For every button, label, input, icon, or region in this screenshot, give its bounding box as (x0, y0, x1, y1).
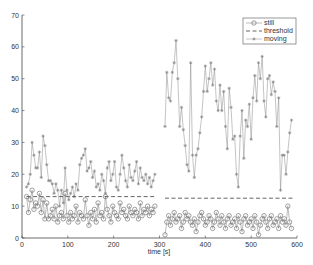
moving-marker (202, 90, 205, 93)
moving-marker (106, 166, 109, 169)
moving-marker (76, 189, 79, 192)
moving-marker (264, 115, 267, 118)
moving-marker (255, 99, 258, 102)
moving-marker (198, 131, 201, 134)
x-axis-label: time [s] (148, 248, 171, 256)
moving-marker (126, 185, 129, 188)
moving-marker (266, 77, 269, 80)
moving-marker (193, 176, 196, 179)
moving-marker (96, 182, 99, 185)
moving-line (165, 41, 292, 191)
moving-marker (204, 64, 207, 67)
moving-marker (30, 141, 33, 144)
moving-marker (235, 173, 238, 176)
moving-marker (107, 160, 110, 163)
x-tick-label: 600 (291, 241, 303, 248)
moving-marker (250, 138, 253, 141)
moving-marker (244, 119, 247, 122)
moving-marker (84, 147, 87, 150)
moving-marker (268, 74, 271, 77)
x-tick-label: 500 (245, 241, 257, 248)
moving-marker (115, 185, 118, 188)
x-tick-label: 400 (199, 241, 211, 248)
moving-marker (148, 176, 151, 179)
moving-marker (171, 71, 174, 74)
moving-marker (174, 39, 177, 42)
moving-marker (213, 68, 216, 71)
moving-marker (131, 179, 134, 182)
chart: 0100200300400500600010203040506070 still… (0, 0, 313, 265)
moving-marker (185, 163, 188, 166)
moving-marker (71, 185, 74, 188)
moving-marker (133, 170, 136, 173)
moving-marker (102, 179, 105, 182)
moving-marker (275, 125, 278, 128)
still-marker (289, 226, 293, 230)
moving-marker (32, 154, 35, 157)
moving-marker (218, 83, 221, 86)
moving-marker (153, 173, 156, 176)
moving-marker (195, 154, 198, 157)
moving-marker (207, 77, 210, 80)
moving-marker (228, 87, 231, 90)
moving-marker (277, 96, 280, 99)
moving-marker (43, 144, 46, 147)
moving-marker (140, 176, 143, 179)
legend: stillthresholdmoving (243, 18, 296, 44)
moving-marker (146, 182, 149, 185)
moving-marker (95, 185, 98, 188)
moving-marker (184, 144, 187, 147)
moving-marker (63, 166, 66, 169)
moving-marker (215, 99, 218, 102)
moving-marker (217, 109, 220, 112)
moving-marker (169, 99, 172, 102)
moving-marker (233, 134, 236, 137)
y-tick-label: 50 (11, 75, 19, 82)
moving-marker (56, 189, 59, 192)
moving-marker (118, 173, 121, 176)
moving-marker (135, 160, 138, 163)
moving-marker (279, 189, 282, 192)
moving-marker (240, 109, 243, 112)
y-tick-label: 60 (11, 43, 19, 50)
moving-marker (91, 176, 94, 179)
moving-marker (129, 176, 132, 179)
moving-marker (51, 182, 54, 185)
moving-marker (239, 134, 242, 137)
moving-marker (253, 74, 256, 77)
moving-marker (128, 163, 131, 166)
moving-marker (229, 106, 232, 109)
moving-marker (113, 160, 116, 163)
moving-marker (180, 106, 183, 109)
moving-marker (78, 163, 81, 166)
moving-marker (74, 182, 77, 185)
moving-marker (290, 119, 293, 122)
moving-marker (191, 154, 194, 157)
moving-marker (224, 125, 227, 128)
moving-marker (89, 160, 92, 163)
x-tick-label: 200 (108, 241, 120, 248)
moving-marker (189, 61, 192, 64)
moving-marker (270, 93, 273, 96)
moving-marker (288, 131, 291, 134)
series-still (24, 188, 293, 237)
series-threshold (27, 197, 293, 199)
moving-marker (222, 90, 225, 93)
moving-marker (211, 83, 214, 86)
moving-marker (259, 77, 262, 80)
moving-marker (93, 170, 96, 173)
moving-marker (200, 115, 203, 118)
moving-marker (60, 189, 63, 192)
moving-marker (284, 173, 287, 176)
moving-marker (38, 150, 41, 153)
moving-marker (173, 61, 176, 64)
moving-marker (246, 125, 249, 128)
moving-marker (242, 157, 245, 160)
moving-marker (25, 185, 28, 188)
moving-marker (272, 80, 275, 83)
moving-marker (187, 170, 190, 173)
moving-marker (151, 179, 154, 182)
moving-marker (120, 154, 123, 157)
moving-marker (98, 189, 101, 192)
x-tick-label: 0 (20, 241, 24, 248)
